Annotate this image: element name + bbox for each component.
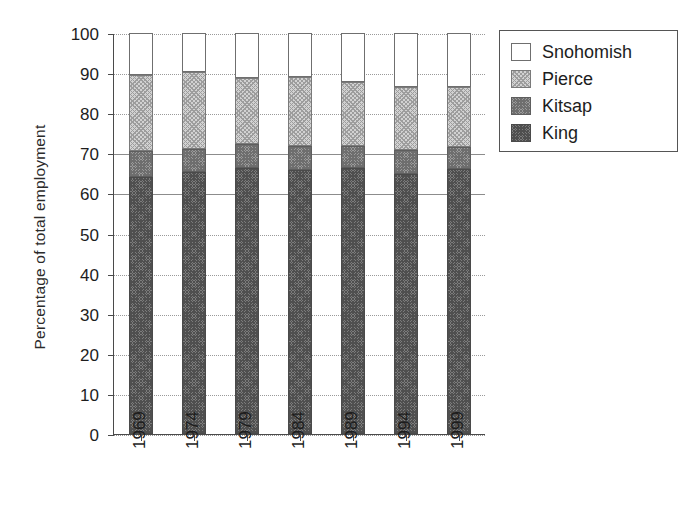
y-tick-40: [108, 275, 114, 276]
bar-segment-1999-king: [447, 169, 471, 434]
bar-segment-1969-king: [129, 177, 153, 434]
bar-segment-1999-kitsap: [447, 147, 471, 169]
y-tick-60: [108, 194, 114, 195]
y-tick-label-70: 70: [53, 146, 99, 163]
bar-1979: [235, 33, 259, 434]
y-tick-label-10: 10: [53, 387, 99, 404]
y-tick-label-100: 100: [53, 26, 99, 43]
bar-1989: [341, 33, 365, 434]
y-tick-label-20: 20: [53, 347, 99, 364]
x-tick-label-1994: 1994: [396, 411, 413, 449]
legend-label-king: King: [542, 124, 578, 142]
bar-segment-1994-kitsap: [394, 150, 418, 174]
legend-label-snohomish: Snohomish: [542, 43, 632, 61]
legend-swatch-snohomish: [511, 43, 531, 61]
legend-item-kitsap[interactable]: Kitsap: [511, 93, 592, 119]
bar-segment-1974-king: [182, 172, 206, 434]
bar-segment-1984-pierce: [288, 77, 312, 146]
y-tick-label-30: 30: [53, 307, 99, 324]
legend-item-king[interactable]: King: [511, 120, 578, 146]
bar-1999: [447, 33, 471, 434]
y-tick-80: [108, 114, 114, 115]
x-tick-label-1999: 1999: [449, 411, 466, 449]
bar-segment-1989-pierce: [341, 82, 365, 146]
y-tick-label-90: 90: [53, 66, 99, 83]
y-tick-100: [108, 34, 114, 35]
x-tick-label-1984: 1984: [290, 411, 307, 449]
bar-segment-1979-kitsap: [235, 144, 259, 168]
x-tick-label-1989: 1989: [343, 411, 360, 449]
bar-segment-1974-kitsap: [182, 149, 206, 172]
legend-item-pierce[interactable]: Pierce: [511, 66, 593, 92]
bar-segment-1989-kitsap: [341, 146, 365, 168]
bar-1994: [394, 33, 418, 434]
bar-1984: [288, 33, 312, 434]
x-tick-label-1974: 1974: [184, 411, 201, 449]
bar-segment-1994-king: [394, 174, 418, 434]
bar-segment-1979-snohomish: [235, 33, 259, 78]
bar-segment-1974-snohomish: [182, 33, 206, 72]
y-tick-30: [108, 315, 114, 316]
y-tick-50: [108, 235, 114, 236]
y-tick-20: [108, 355, 114, 356]
y-tick-label-60: 60: [53, 186, 99, 203]
y-tick-label-50: 50: [53, 227, 99, 244]
x-tick-label-1979: 1979: [237, 411, 254, 449]
y-tick-0: [108, 435, 114, 436]
bar-segment-1999-snohomish: [447, 33, 471, 87]
legend-swatch-king: [511, 124, 531, 142]
x-tick-label-1969: 1969: [131, 411, 148, 449]
bar-segment-1984-kitsap: [288, 146, 312, 170]
legend-label-pierce: Pierce: [542, 70, 593, 88]
y-tick-70: [108, 154, 114, 155]
y-tick-10: [108, 395, 114, 396]
bar-segment-1969-pierce: [129, 75, 153, 151]
bar-segment-1979-pierce: [235, 78, 259, 144]
legend-label-kitsap: Kitsap: [542, 97, 592, 115]
bar-segment-1989-snohomish: [341, 33, 365, 82]
legend-swatch-pierce: [511, 70, 531, 88]
chart-legend: SnohomishPierceKitsapKing: [499, 30, 678, 152]
bar-segment-1969-kitsap: [129, 151, 153, 177]
bar-1969: [129, 33, 153, 434]
legend-item-snohomish[interactable]: Snohomish: [511, 39, 632, 65]
y-tick-label-40: 40: [53, 267, 99, 284]
bar-segment-1979-king: [235, 168, 259, 434]
plot-area: [113, 34, 485, 435]
bar-segment-1989-king: [341, 168, 365, 434]
bar-segment-1969-snohomish: [129, 33, 153, 75]
bar-segment-1999-pierce: [447, 87, 471, 147]
stacked-bar-chart: Percentage of total employment 010203040…: [0, 0, 684, 529]
bar-segment-1974-pierce: [182, 72, 206, 149]
y-axis-title: Percentage of total employment: [31, 47, 49, 427]
bar-segment-1994-pierce: [394, 87, 418, 150]
y-tick-label-0: 0: [53, 427, 99, 444]
bar-segment-1984-king: [288, 170, 312, 434]
legend-swatch-kitsap: [511, 97, 531, 115]
bar-1974: [182, 33, 206, 434]
y-tick-90: [108, 74, 114, 75]
bar-segment-1994-snohomish: [394, 33, 418, 87]
y-tick-label-80: 80: [53, 106, 99, 123]
bar-segment-1984-snohomish: [288, 33, 312, 77]
